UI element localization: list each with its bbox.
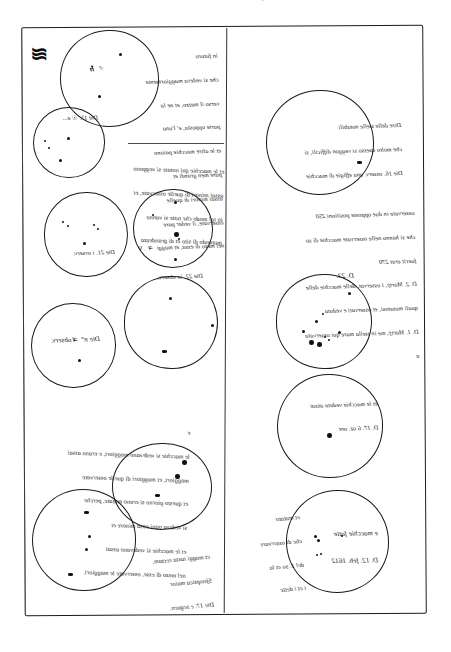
sunspot [174,232,179,237]
sunspot [182,460,187,465]
sunspot [178,238,180,240]
sunspot [88,535,91,538]
note-line: e [32,423,190,436]
sun-disk-4 [133,189,213,268]
sun-disk-r2 [276,274,372,369]
top-cut-text-strip: di 9 ap 1 d 4 5 6 3 1 2 7 [0,0,451,16]
disk-r3-caption: et le macchie veduta assai D. 17. 6 oz. … [237,384,379,452]
sunspot [59,159,62,162]
sunspot [322,313,324,315]
sunspot [67,225,69,227]
disk-r4-caption: e macchie fatte D. 12. feb. 1612 [299,511,378,584]
sunspot [175,474,180,479]
top-cut-text: di 9 ap 1 d 4 5 6 3 1 2 7 [70,0,324,1]
note-line: i et i dette [234,584,306,598]
sunspot [174,258,177,261]
note-line: che si hanno nelle osservate macchie di … [235,233,415,247]
sun-disk-3 [44,192,128,277]
sunspot [78,359,81,362]
sunspot [83,242,86,245]
note-line: verso il mezzo, et ne la [135,99,219,110]
sunspot [328,339,330,341]
sun-disk-8 [32,489,136,591]
note-line: D. 17. 6 oz. ore [238,423,378,436]
sunspot [68,573,73,576]
sunspot [97,228,99,230]
ink-blob-glyph: ≋ [35,46,48,72]
note-line: in futuro [134,51,218,62]
sunspot [174,201,177,204]
note-right-bottom: et mutato che di osservare del 1. so et … [226,497,307,614]
disk-r2-caption: D. 23. [320,272,354,282]
sunspot [84,511,89,514]
sunspot [162,350,167,353]
note-line: et maggi iuxta rectam. [130,552,210,567]
sunspot [44,140,46,142]
note-line: fuerit erat 270 [236,256,416,270]
note-line: Dire delle stelle notabili [231,121,401,135]
sunspot [98,95,101,98]
sunspot [302,330,305,333]
note-line: che si vedeva maggiormente [134,75,218,86]
note-line: et le macchie qui notate si veggono [127,164,224,175]
sunspot [211,324,214,327]
sunspot [348,292,351,295]
note-line: Sŷnoptica maior [132,576,212,591]
note-line: et le macchie veduta assai [237,399,377,412]
sun-disk-6 [124,276,218,369]
sunspot [85,548,88,551]
sunspot [315,320,318,323]
disk-8-caption: et maggi iuxta rectam. Sŷnoptica maior D… [128,537,215,631]
sunspot [93,224,95,226]
note-line: che molto spesso si veggon difficili, si [232,145,402,159]
note-line: parte opposta, e' l'una [136,123,220,134]
sunspot [169,297,172,300]
sunspot [152,214,154,216]
section-rule-left [128,143,224,144]
note-line: del 1. so et la [232,560,304,574]
note-line: Die 16. osserv. una effigie di macchie [233,169,403,183]
note-line: e macchie fatte [300,529,378,540]
disk-2-caption: Die 1°. ☉ e... [42,113,98,122]
sunspot [62,221,64,223]
manuscript-page: di 9 ap 1 d 4 5 6 3 1 2 7 ≋ ♂ ♄ in futur… [0,0,451,652]
sunspot [119,53,122,56]
disk-r1-caption: Dire delle stelle notabili che molto spe… [231,105,404,198]
sunspot [48,147,50,149]
sunspot [67,137,70,140]
note-line: Die 17. e seguen. [134,600,214,615]
note-line: D. 12. feb. 1612 [300,556,378,567]
sunspot [324,336,326,338]
disk-1-inner-mark: ♂ ♄ [78,63,104,74]
sunspot [338,331,341,334]
note-line: osservate in due opposte positioni 250 [234,209,414,223]
sunspot [317,342,322,347]
note-line: che di osservare [230,537,302,551]
note-line: et mutato [228,513,300,527]
sunspot [309,340,314,345]
sunspot [155,494,160,497]
